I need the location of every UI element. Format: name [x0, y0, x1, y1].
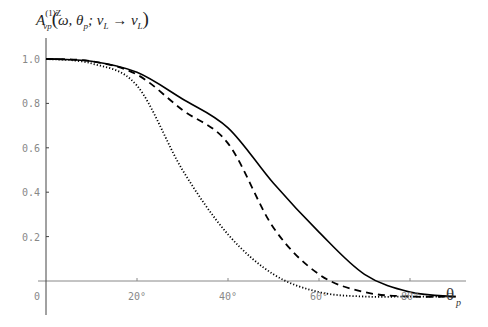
series-group: [46, 59, 456, 297]
axes: [38, 38, 466, 315]
x-tick-label: 20°: [128, 291, 146, 302]
y-tick-label: 0.8: [22, 98, 40, 109]
y-tick-label: 0.4: [22, 187, 40, 198]
x-tick-label: 40°: [219, 291, 237, 302]
series-dotted-line: [46, 59, 456, 297]
line-chart: 20°40°60°80°00.20.40.60.81.0θp: [0, 0, 488, 327]
y-tick-label: 1.0: [22, 54, 40, 65]
x-axis-title: θ: [446, 285, 454, 304]
x-tick-label: 60°: [310, 291, 328, 302]
y-tick-label: 0.2: [22, 232, 40, 243]
x-axis-title-sub: p: [455, 297, 461, 308]
series-dashed-line: [46, 59, 456, 297]
series-solid-line: [46, 59, 456, 297]
y-tick-label: 0.6: [22, 143, 40, 154]
x-tick-label: 80°: [401, 291, 419, 302]
tick-labels: 20°40°60°80°00.20.40.60.81.0θp: [22, 54, 461, 308]
origin-label: 0: [34, 291, 40, 302]
